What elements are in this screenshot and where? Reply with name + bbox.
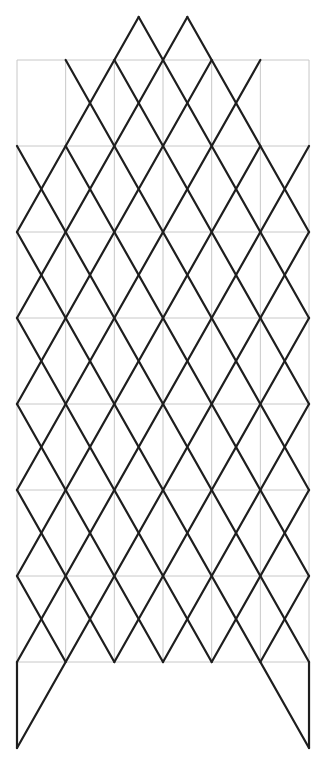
background-grid [17, 60, 309, 662]
lattice-segment [17, 17, 187, 318]
lattice-segment [139, 17, 309, 318]
lattice-segment [17, 17, 139, 232]
diamond-lattice-diagram [0, 0, 323, 764]
lattice-segment [187, 17, 309, 232]
